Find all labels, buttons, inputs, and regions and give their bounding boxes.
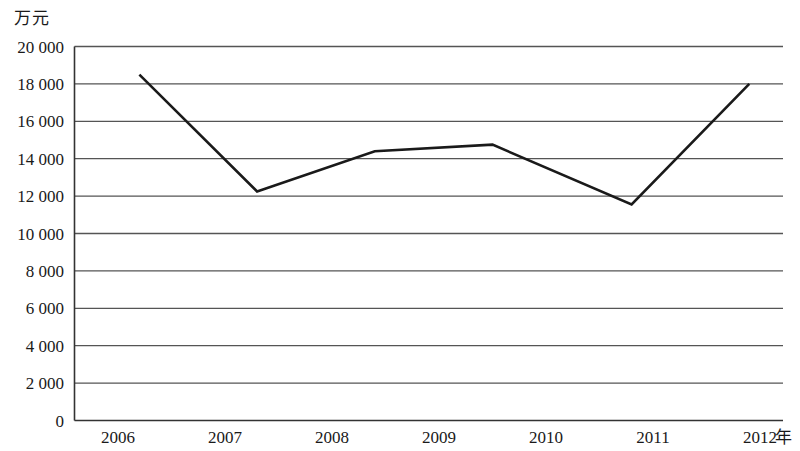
x-tick-label: 2007	[208, 429, 242, 446]
y-tick-label: 20 000	[0, 38, 64, 55]
chart-plot-svg	[0, 0, 800, 451]
y-tick-label: 0	[0, 412, 64, 429]
x-tick-label: 2008	[315, 429, 349, 446]
y-tick-label: 2 000	[0, 375, 64, 392]
x-tick-label: 2010	[529, 429, 563, 446]
y-tick-label: 16 000	[0, 113, 64, 130]
x-tick-label: 2011	[636, 429, 669, 446]
line-chart: 万元 20 00018 00016 00014 00012 00010 0008…	[0, 0, 800, 451]
data-line-series	[139, 75, 749, 205]
x-tick-label: 2006	[101, 429, 135, 446]
y-tick-label: 12 000	[0, 188, 64, 205]
x-axis-unit-label: 年	[775, 429, 792, 446]
y-tick-label: 4 000	[0, 337, 64, 354]
y-tick-label: 10 000	[0, 225, 64, 242]
x-tick-label: 2009	[422, 429, 456, 446]
y-tick-label: 8 000	[0, 262, 64, 279]
y-tick-label: 18 000	[0, 75, 64, 92]
y-tick-label: 6 000	[0, 300, 64, 317]
y-tick-label: 14 000	[0, 150, 64, 167]
x-tick-label: 2012	[743, 429, 777, 446]
